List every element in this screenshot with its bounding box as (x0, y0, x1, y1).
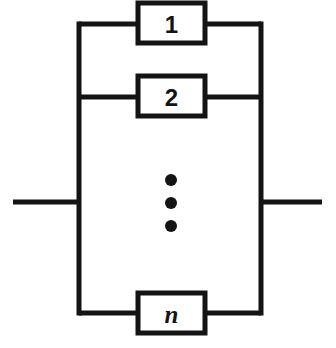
block-n-label: n (165, 301, 179, 328)
block-2-label: 2 (165, 84, 178, 111)
block-1-label: 1 (165, 11, 178, 38)
ellipsis-dot-2 (165, 197, 177, 209)
diagram-canvas: 1 2 n (0, 0, 336, 348)
parallel-block-diagram: 1 2 n (0, 0, 336, 348)
ellipsis-dot-1 (165, 174, 177, 186)
ellipsis-dot-3 (165, 220, 177, 232)
